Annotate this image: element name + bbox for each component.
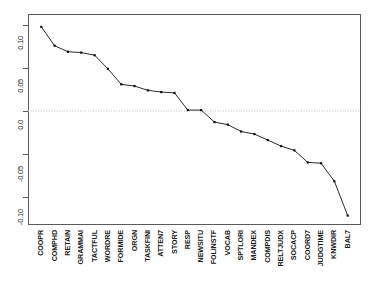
x-tick-label: RELTJUDX (281, 189, 289, 228)
x-tick-label: KNWDIR (334, 197, 342, 228)
data-point (227, 124, 229, 126)
data-point (80, 52, 82, 54)
data-point (187, 109, 189, 111)
x-tick-label: WORDRE (108, 194, 116, 228)
x-tick-label: SOCACP (294, 196, 302, 228)
chart-figure: 0.100.050.0-0.05-0.10 COOPRCOMPHDRETAING… (0, 0, 383, 290)
x-tick-label: BAL7 (348, 208, 356, 228)
x-tick-label: ATTEN7 (161, 199, 169, 228)
data-point (240, 130, 242, 132)
data-point (40, 26, 42, 28)
data-point (173, 92, 175, 94)
data-point (280, 145, 282, 147)
data-point (54, 45, 56, 47)
data-point (293, 149, 295, 151)
data-point (94, 54, 96, 56)
data-point (333, 180, 335, 182)
data-point (253, 133, 255, 135)
series-line (41, 27, 347, 216)
x-tick-label: COORD7 (308, 196, 316, 228)
data-point (160, 91, 162, 93)
data-point (307, 161, 309, 163)
x-tick-label: VOCAB (228, 201, 236, 228)
data-point (320, 162, 322, 164)
x-tick-label: TASKFINI (148, 194, 156, 228)
data-point (213, 121, 215, 123)
x-tick-label: STORY (175, 202, 183, 228)
x-tick-label: COOPR (41, 200, 49, 228)
x-tick-label: SPTLORI (241, 196, 249, 228)
data-point (133, 85, 135, 87)
data-point (200, 109, 202, 111)
x-tick-label: TACTFUL (95, 194, 103, 228)
x-tick-label: GRAMMAI (81, 192, 89, 228)
x-tick-label: RESP (188, 207, 196, 228)
x-tick-label: FOLINSTF (214, 192, 222, 228)
x-tick-label: ORGN (135, 205, 143, 228)
x-tick-label: RETAIN (68, 200, 76, 228)
x-tick-label: JUDGTIME (321, 190, 329, 228)
x-tick-label: NEWSITU (201, 194, 209, 228)
data-point (67, 51, 69, 53)
x-tick-label: FORMIDE (121, 194, 129, 228)
x-axis: COOPRCOMPHDRETAINGRAMMAITACTFULWORDREFOR… (0, 225, 383, 290)
data-point (147, 89, 149, 91)
data-point (120, 83, 122, 85)
x-tick-label: COMPHD (55, 195, 63, 228)
x-tick-label: COMPDIS (268, 193, 276, 228)
series-points (40, 26, 349, 217)
data-point (107, 68, 109, 70)
data-point (267, 139, 269, 141)
x-tick-label: MANDEX (254, 195, 262, 228)
